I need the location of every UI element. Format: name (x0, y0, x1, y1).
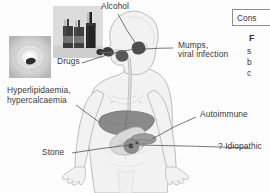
label-autoimmune: Autoimmune (200, 110, 248, 120)
human-figure (62, 11, 188, 193)
label-stone: Stone (42, 148, 64, 158)
side-panel-line-1: s (247, 46, 251, 56)
side-panel-box-label: Cons (237, 13, 257, 23)
oesophagus (129, 58, 130, 115)
figure-canvas: Alcohol Drugs Mumps, viral infection Hyp… (0, 0, 270, 193)
side-panel-heading: F (249, 33, 254, 43)
side-panel-line-3: c (247, 68, 251, 78)
side-panel-line-2: b (247, 57, 252, 67)
label-alcohol: Alcohol (101, 2, 129, 12)
label-hypercalcaemia-line2: hypercalcaemia (7, 96, 67, 106)
label-mumps-line2: viral infection (178, 50, 228, 60)
label-idiopathic: ? Idiopathic (218, 142, 262, 152)
label-drugs: Drugs (57, 57, 80, 67)
